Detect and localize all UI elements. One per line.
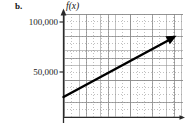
axes-and-data-layer [0,0,188,123]
data-line-fx [64,40,171,98]
x-axis-arrowhead-icon [180,115,186,119]
figure-panel: b. f(x) 100,000 50,000 [0,0,188,123]
y-axis-arrowhead-icon [61,9,67,16]
